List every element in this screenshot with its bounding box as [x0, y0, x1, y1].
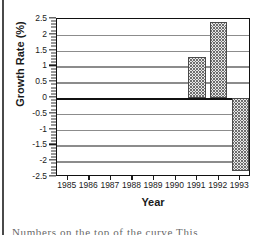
y-tick-label: -2.5 — [32, 171, 47, 181]
y-tick-major — [49, 160, 56, 161]
y-tick-major — [49, 49, 56, 50]
gridline — [57, 145, 249, 146]
y-tick-label: -1 — [39, 124, 47, 134]
y-tick-label: 0 — [42, 92, 47, 102]
y-tick-major — [49, 96, 56, 97]
x-tick-label: 1991 — [187, 180, 206, 190]
y-tick-major — [49, 175, 56, 176]
x-tick-label: 1987 — [100, 180, 119, 190]
gridline — [57, 130, 249, 131]
y-tick-major — [49, 144, 56, 145]
y-tick-label: 2.5 — [35, 13, 47, 23]
x-tick-label: 1986 — [79, 180, 98, 190]
gridline — [57, 161, 249, 162]
y-tick-major — [49, 112, 56, 113]
x-tick-label: 1988 — [122, 180, 141, 190]
x-tick-label: 1993 — [230, 180, 249, 190]
y-tick-label: -0.5 — [32, 108, 47, 118]
bar-1991 — [188, 57, 205, 98]
y-tick-label: -2 — [39, 155, 47, 165]
y-tick-major — [49, 81, 56, 82]
y-tick-label: 0.5 — [35, 76, 47, 86]
y-tick-label: 1.5 — [35, 45, 47, 55]
x-tick-label: 1990 — [165, 180, 184, 190]
y-tick-label: 2 — [42, 29, 47, 39]
y-tick-label: -1.5 — [32, 139, 47, 149]
plot-area — [56, 18, 250, 176]
y-tick-label: 1 — [42, 60, 47, 70]
x-tick-label: 1989 — [144, 180, 163, 190]
bar-1993 — [232, 98, 249, 171]
x-axis-tick-labels: 198519861987198819891990199119921993 — [56, 180, 250, 192]
gridline — [57, 114, 249, 115]
y-tick-major — [49, 128, 56, 129]
y-tick-major — [49, 17, 56, 18]
caption-text-clipped: Numbers on the top of the curve This — [12, 226, 268, 235]
growth-rate-bar-chart: Growth Rate (%) 2.521.510.50-0.5-1-1.5-2… — [0, 0, 268, 235]
y-tick-major — [49, 65, 56, 66]
y-axis-title: Growth Rate (%) — [14, 4, 26, 124]
bar-1992 — [210, 22, 227, 98]
x-tick-label: 1992 — [208, 180, 227, 190]
y-tick-major — [49, 33, 56, 34]
zero-line — [57, 98, 249, 100]
x-axis-title: Year — [56, 196, 250, 208]
x-tick-label: 1985 — [57, 180, 76, 190]
